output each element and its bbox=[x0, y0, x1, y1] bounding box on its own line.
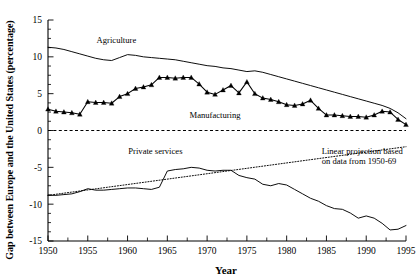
x-tick-label: 1955 bbox=[78, 246, 97, 256]
chart-figure: Gap between Europe and the United States… bbox=[0, 0, 420, 280]
y-axis-title: Gap between Europe and the United States… bbox=[4, 20, 16, 259]
y-tick-label: 0 bbox=[37, 126, 42, 136]
y-tick-label: -15 bbox=[29, 236, 42, 246]
line-chart: Gap between Europe and the United States… bbox=[0, 0, 420, 280]
y-tick-label: -5 bbox=[34, 163, 42, 173]
data-point-marker bbox=[260, 96, 265, 100]
tick-labels-group: -15-10-505101519501955196019651970197519… bbox=[29, 15, 415, 256]
series-annotation-label: Manufacturing bbox=[190, 110, 242, 120]
x-tick-label: 1950 bbox=[39, 246, 58, 256]
x-tick-label: 1990 bbox=[357, 246, 376, 256]
y-tick-label: 10 bbox=[33, 52, 43, 62]
series-annotation-label: on data from 1950-69 bbox=[322, 156, 397, 166]
x-tick-label: 1970 bbox=[198, 246, 217, 256]
data-point-marker bbox=[125, 91, 130, 95]
x-tick-label: 1980 bbox=[277, 246, 296, 256]
data-point-marker bbox=[46, 107, 51, 111]
data-point-marker bbox=[221, 87, 226, 91]
x-axis-title: Year bbox=[215, 264, 237, 276]
x-tick-label: 1975 bbox=[237, 246, 256, 256]
data-point-marker bbox=[244, 79, 249, 83]
x-tick-label: 1965 bbox=[158, 246, 177, 256]
y-tick-label: 5 bbox=[37, 89, 42, 99]
y-tick-label: -10 bbox=[29, 200, 42, 210]
series-annotation-label: Agriculture bbox=[97, 35, 137, 45]
x-tick-label: 1960 bbox=[118, 246, 137, 256]
data-point-marker bbox=[308, 98, 313, 102]
x-tick-label: 1985 bbox=[317, 246, 336, 256]
x-tick-label: 1995 bbox=[397, 246, 416, 256]
series-annotation-label: Linear projection based bbox=[322, 146, 404, 156]
y-axis-title-group: Gap between Europe and the United States… bbox=[4, 20, 16, 259]
series-line-private bbox=[48, 167, 406, 230]
y-tick-label: 15 bbox=[33, 15, 43, 25]
series-line-agriculture bbox=[48, 47, 406, 118]
annotations-group: AgricultureManufacturingPrivate services… bbox=[97, 35, 404, 166]
data-series-group bbox=[48, 47, 406, 230]
data-point-marker bbox=[229, 83, 234, 87]
series-annotation-label: Private services bbox=[128, 146, 183, 156]
data-point-marker bbox=[404, 122, 409, 126]
